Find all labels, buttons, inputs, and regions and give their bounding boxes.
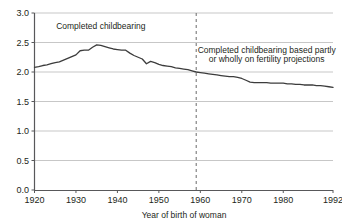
y-tick-label: 2.5 (16, 38, 29, 48)
y-tick-label: 1.5 (16, 97, 29, 107)
y-tick-label: 3.0 (16, 8, 29, 18)
x-tick-label: 1940 (107, 195, 127, 205)
x-tick-label: 1950 (149, 195, 169, 205)
y-tick-label: 1.0 (16, 126, 29, 136)
x-tick-label: 1980 (273, 195, 293, 205)
y-tick-label: 0.5 (16, 156, 29, 166)
y-tick-label: 2.0 (16, 67, 29, 77)
x-tick-label: 1970 (232, 195, 252, 205)
annotation-completed-childbearing: Completed childbearing (56, 21, 146, 31)
x-tick-label: 1960 (190, 195, 210, 205)
x-axis-title: Year of birth of woman (142, 210, 227, 220)
y-tick-label: 0.0 (16, 185, 29, 195)
chart-container: 0.00.51.01.52.02.53.0 192019301940195019… (0, 0, 342, 224)
x-axis-tick-labels: 19201930194019501960197019801992 (24, 195, 342, 205)
annotation-projection-line2: or wholly on fertility projections (209, 54, 325, 64)
x-tick-label: 1930 (66, 195, 86, 205)
gridlines (35, 13, 334, 161)
x-tick-label: 1992 (323, 195, 342, 205)
y-axis-tick-labels: 0.00.51.01.52.02.53.0 (16, 8, 29, 195)
completed-childbearing-line-chart: 0.00.51.01.52.02.53.0 192019301940195019… (0, 0, 342, 224)
x-tick-label: 1920 (24, 195, 44, 205)
